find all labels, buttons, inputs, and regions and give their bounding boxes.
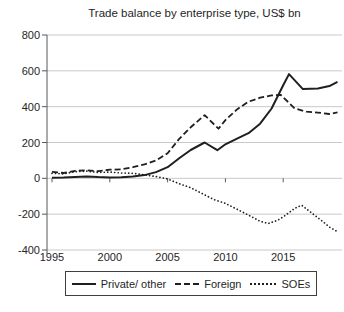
x-axis-label: 2015 (271, 251, 295, 263)
x-axis-label: 1995 (40, 251, 64, 263)
y-axis-label: -200 (18, 208, 40, 220)
legend-label-soes: SOEs (281, 278, 310, 290)
legend-label-private-other: Private/ other (101, 278, 166, 290)
y-axis-label: 400 (22, 101, 40, 113)
legend: Private/ other Foreign SOEs (65, 271, 317, 296)
x-axis-label: 2010 (213, 251, 237, 263)
solid-line-icon (72, 283, 96, 285)
legend-label-foreign: Foreign (204, 278, 241, 290)
x-axis-label: 2000 (98, 251, 122, 263)
y-axis-label: 800 (22, 29, 40, 41)
dashed-line-icon (175, 283, 199, 285)
y-axis-label: 600 (22, 65, 40, 77)
y-axis-label: 0 (34, 172, 40, 184)
series-line-soes (52, 171, 338, 232)
legend-item-soes: SOEs (250, 278, 310, 290)
series-line-private-other (52, 74, 338, 178)
legend-item-private-other: Private/ other (72, 278, 166, 290)
chart: Trade balance by enterprise type, US$ bn… (0, 0, 344, 312)
x-axis-label: 2005 (155, 251, 179, 263)
legend-item-foreign: Foreign (175, 278, 241, 290)
y-axis-label: 200 (22, 137, 40, 149)
dotted-line-icon (250, 283, 276, 285)
plot-area: 8006004002000-200-4001995200020052010201… (0, 0, 344, 268)
y-axis-label: -400 (18, 244, 40, 256)
